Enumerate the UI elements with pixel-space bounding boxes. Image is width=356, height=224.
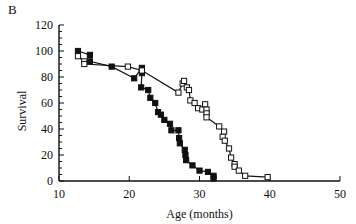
x-tick-label: 20: [123, 187, 135, 201]
x-tick-label: 10: [53, 187, 65, 201]
data-point: [222, 138, 227, 143]
y-tick-label: 0: [47, 174, 53, 188]
data-point: [203, 102, 208, 107]
data-point: [184, 158, 189, 163]
data-point: [177, 136, 182, 141]
data-point: [87, 52, 92, 57]
data-point: [211, 176, 216, 181]
data-point: [181, 78, 186, 83]
data-point: [153, 100, 158, 105]
y-axis-title: Survival: [15, 90, 29, 131]
data-point: [192, 100, 197, 105]
data-point: [204, 115, 209, 120]
y-tick-label: 40: [41, 122, 53, 136]
y-tick-label: 60: [41, 96, 53, 110]
data-point: [139, 68, 144, 73]
data-point: [176, 90, 181, 95]
y-tick-label: 100: [35, 44, 53, 58]
data-point: [146, 87, 151, 92]
data-point: [226, 146, 231, 151]
series-filled-square: [75, 48, 216, 181]
data-point: [197, 168, 202, 173]
data-point: [125, 64, 130, 69]
survival-chart: 0204060801001201020304050Age (months)Sur…: [0, 0, 356, 224]
data-point: [205, 169, 210, 174]
data-point: [75, 54, 80, 59]
data-point: [139, 85, 144, 90]
data-point: [169, 128, 174, 133]
data-point: [158, 112, 163, 117]
data-point: [75, 48, 80, 53]
x-axis-title: Age (months): [166, 207, 232, 221]
data-point: [265, 175, 270, 180]
y-tick-label: 20: [41, 148, 53, 162]
data-point: [132, 76, 137, 81]
data-point: [167, 121, 172, 126]
data-point: [109, 64, 114, 69]
data-point: [186, 87, 191, 92]
data-point: [148, 95, 153, 100]
y-tick-label: 80: [41, 70, 53, 84]
data-point: [236, 168, 241, 173]
series-open-square: [75, 54, 270, 180]
data-point: [183, 152, 188, 157]
data-point: [82, 61, 87, 66]
data-point: [221, 129, 226, 134]
data-point: [190, 163, 195, 168]
data-point: [87, 59, 92, 64]
data-point: [229, 155, 234, 160]
data-point: [162, 117, 167, 122]
data-point: [182, 147, 187, 152]
data-point: [243, 173, 248, 178]
y-tick-label: 120: [35, 18, 53, 32]
x-tick-label: 30: [194, 187, 206, 201]
x-tick-label: 40: [264, 187, 276, 201]
data-point: [217, 124, 222, 129]
data-point: [176, 128, 181, 133]
data-point: [177, 141, 182, 146]
x-tick-label: 50: [334, 187, 346, 201]
